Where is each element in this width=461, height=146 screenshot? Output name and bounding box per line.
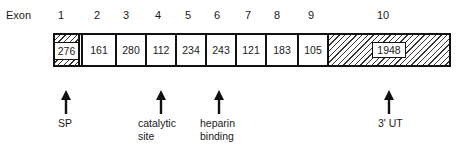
annotation-catalytic-site: catalytic site xyxy=(138,117,176,143)
exon-number-8: 8 xyxy=(274,9,280,22)
exon-8-size: 183 xyxy=(273,44,291,56)
arrow-up-icon xyxy=(214,90,224,114)
exon-6-size: 243 xyxy=(212,44,230,56)
exon-number-2: 2 xyxy=(94,9,100,22)
exon-10: 1948 xyxy=(329,35,449,65)
exon-3-size: 280 xyxy=(122,44,140,56)
exon-9-size: 105 xyxy=(304,44,322,56)
annotation-heparin-binding: heparin binding xyxy=(200,117,235,143)
exon-5: 234 xyxy=(177,35,207,65)
exon-2-size: 161 xyxy=(90,44,108,56)
exon-number-7: 7 xyxy=(245,9,251,22)
exon-10-size: 1948 xyxy=(372,42,405,58)
exon-7-size: 121 xyxy=(242,44,260,56)
annotation-3-ut: 3' UT xyxy=(378,117,403,130)
exon-header-label: Exon xyxy=(6,9,31,22)
exon-number-4: 4 xyxy=(155,9,161,22)
gene-structure-bar: 276 161 280 112 234 243 121 183 105 1948 xyxy=(53,33,451,67)
arrow-up-icon xyxy=(384,90,394,114)
exon-7: 121 xyxy=(237,35,267,65)
exon-number-9: 9 xyxy=(308,9,314,22)
exon-number-5: 5 xyxy=(185,9,191,22)
annotation-sp: SP xyxy=(58,117,72,130)
exon-1-size: 276 xyxy=(55,42,78,60)
exon-number-3: 3 xyxy=(123,9,129,22)
exon-8: 183 xyxy=(267,35,299,65)
exon-number-10: 10 xyxy=(377,9,389,22)
exon-1: 276 xyxy=(55,35,80,65)
exon-4: 112 xyxy=(147,35,177,65)
exon-6: 243 xyxy=(207,35,237,65)
exon-2: 161 xyxy=(83,35,117,65)
exon-5-size: 234 xyxy=(182,44,200,56)
exon-4-size: 112 xyxy=(153,44,170,56)
exon-9: 105 xyxy=(299,35,329,65)
exon-number-6: 6 xyxy=(214,9,220,22)
arrow-up-icon xyxy=(61,90,71,114)
exon-3: 280 xyxy=(117,35,147,65)
arrow-up-icon xyxy=(156,90,166,114)
exon-number-1: 1 xyxy=(58,9,64,22)
